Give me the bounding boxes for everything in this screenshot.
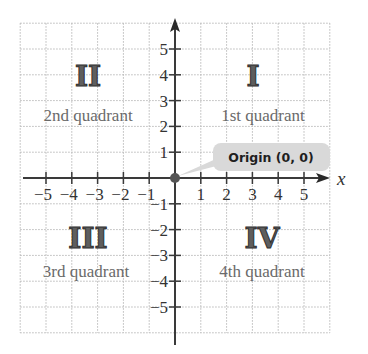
quadrant-2-label: 2nd quadrant	[43, 106, 133, 125]
x-tick-label: 5	[300, 185, 309, 204]
x-tick-label: −5	[34, 185, 52, 204]
x-tick-label: 3	[248, 185, 257, 204]
quadrant-2-numeral: II	[75, 60, 101, 93]
x-tick-label: −3	[86, 185, 104, 204]
quadrant-4-numeral: IV	[245, 222, 281, 255]
quadrant-3-numeral: III	[68, 222, 107, 255]
x-tick-label: 1	[197, 185, 206, 204]
y-tick-label: 3	[160, 92, 169, 111]
y-tick-label: −5	[150, 298, 168, 317]
origin-callout-text: Origin (0, 0)	[228, 150, 313, 165]
quadrant-1-numeral: I	[246, 60, 259, 93]
quadrant-4-label: 4th quadrant	[219, 262, 305, 281]
x-tick-label: −2	[111, 185, 129, 204]
y-tick-label: −3	[150, 246, 168, 265]
quadrant-3-label: 3rd quadrant	[43, 262, 130, 281]
x-axis-label: x	[336, 168, 346, 189]
coordinate-plane: −5−4−3−2−11234554321−1−2−3−4−5 x I II II…	[0, 0, 368, 354]
y-tick-label: −1	[150, 195, 168, 214]
y-tick-label: 4	[160, 66, 169, 85]
y-tick-label: −4	[150, 272, 169, 291]
origin-point	[170, 173, 180, 183]
x-tick-label: 2	[222, 185, 231, 204]
x-tick-label: 4	[274, 185, 283, 204]
y-tick-label: −2	[150, 221, 168, 240]
y-tick-label: 5	[160, 40, 169, 59]
x-tick-label: −4	[60, 185, 79, 204]
y-tick-label: 2	[160, 117, 169, 136]
y-tick-label: 1	[160, 143, 169, 162]
quadrant-1-label: 1st quadrant	[221, 106, 305, 125]
